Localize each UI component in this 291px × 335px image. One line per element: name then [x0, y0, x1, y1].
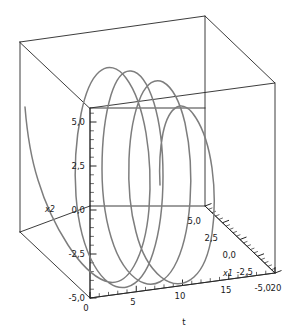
- t-tick-label-20: 20: [271, 283, 282, 293]
- t-tick-label-0: 0: [83, 303, 88, 313]
- x2-tick-label-5-0: 5,0: [71, 117, 85, 127]
- x2-tick-label-neg-5-0: -5,0: [68, 293, 85, 303]
- trajectory-path: [25, 67, 214, 287]
- x1-tick-label-0-0: 0,0: [222, 250, 236, 260]
- x1-tick-label-neg-5-0: -5,0: [254, 283, 271, 293]
- x1-tick-label-5-0: 5,0: [187, 216, 201, 226]
- box-bottom-left-edge: [20, 232, 90, 298]
- x1-axis-title: x1: [222, 269, 233, 278]
- t-tick-label-10: 10: [175, 291, 186, 301]
- x1-tick-label-neg-2-5: -2,5: [236, 267, 253, 277]
- t-axis-title: t: [182, 317, 186, 327]
- x2-tick-label-0-0: 0,0: [71, 205, 85, 215]
- x2-axis-title: x2: [44, 205, 55, 214]
- t-tick-label-15: 15: [221, 285, 232, 295]
- x2-tick-label-neg-2-5: -2,5: [68, 249, 85, 259]
- box-top-face: [20, 16, 275, 108]
- x2-axis: [90, 108, 97, 298]
- bounding-box-frame: [20, 16, 275, 298]
- x2-tick-label-2-5: 2,5: [71, 161, 85, 171]
- plot-canvas: 0 5 10 15 20 t 5,0 2,5 0,0 -2,5 -5,0 x1 …: [0, 0, 291, 335]
- trajectory-curve: [25, 67, 214, 287]
- plot-figure: 0 5 10 15 20 t 5,0 2,5 0,0 -2,5 -5,0 x1 …: [0, 0, 291, 335]
- x1-tick-label-2-5: 2,5: [204, 233, 218, 243]
- t-tick-label-5: 5: [130, 297, 135, 307]
